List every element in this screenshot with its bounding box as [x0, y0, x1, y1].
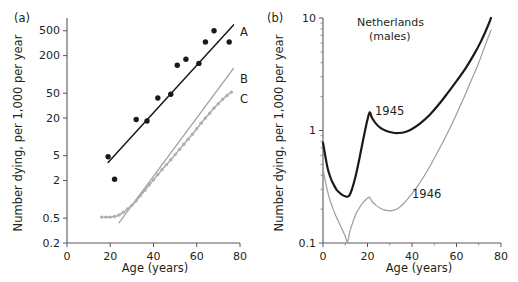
panel-a-x-tick-label: 80 [233, 250, 247, 263]
panel-a-series-C-point [199, 122, 202, 125]
panel-b-series [323, 18, 491, 242]
panel-a-series-A-point [203, 39, 208, 44]
panel-b-x-tick-label: 60 [450, 250, 464, 263]
panel-a-series-C-point [160, 168, 163, 171]
panel-a-series [100, 25, 234, 223]
panel-b-y-axis-title: Number dying, per 1,000 per year [272, 34, 286, 231]
panel-a: (a) Number dying, per 1,000 per year Age… [0, 0, 259, 282]
panel-a-series-C-point [208, 111, 211, 114]
panel-a-series-C-point [147, 183, 150, 186]
panel-a-series-C-point [156, 173, 159, 176]
panel-a-series-A-point [134, 117, 139, 122]
panel-a-series-C-point [178, 148, 181, 151]
panel-b-x-tick-label: 80 [494, 250, 508, 263]
panel-a-series-C-point [117, 213, 120, 216]
panel-a-series-C-curve [102, 92, 232, 217]
panel-a-curve-labels: ABC [240, 25, 248, 106]
panel-b: (b) Number dying, per 1,000 per year Age… [259, 0, 518, 282]
panel-a-series-A-point [196, 61, 201, 66]
panel-a-series-C-point [152, 178, 155, 181]
panel-a-y-axis-title: Number dying, per 1,000 per year [11, 34, 25, 231]
panel-a-series-A-point [112, 177, 117, 182]
panel-a-curve-label-A: A [240, 25, 248, 39]
panel-a-series-A-point [105, 154, 110, 159]
panel-b-x-tick-label: 0 [320, 250, 327, 263]
panel-b-x-axis-title: Age (years) [386, 261, 453, 275]
panel-a-series-C-point [221, 98, 224, 101]
panel-a-x-tick-label: 40 [147, 250, 161, 263]
panel-a-series-C-point [135, 199, 138, 202]
panel-a-y-tick-label: 0.5 [43, 212, 61, 225]
panel-a-series-C-point [173, 153, 176, 156]
panel-a-series-A-point [168, 92, 173, 97]
panel-a-series-C-point [191, 133, 194, 136]
panel-a-series-A-point [144, 118, 149, 123]
panel-b-annotation-country: Netherlands [357, 16, 424, 29]
panel-a-series-A-point [175, 63, 180, 68]
panel-a-x-axis-title: Age (years) [122, 261, 189, 275]
panel-a-x-tick-label: 0 [64, 250, 71, 263]
panel-a-tick-labels: 0.20.5252050200500020406080 [39, 24, 247, 263]
panel-a-y-tick-label: 200 [39, 49, 60, 62]
panel-a-x-tick-label: 20 [103, 250, 117, 263]
panel-b-y-tick-label: 10 [302, 12, 316, 25]
panel-a-series-C-point [212, 106, 215, 109]
panel-a-series-C-point [230, 90, 233, 93]
panel-a-series-C-point [186, 137, 189, 140]
panel-a-series-C-point [122, 211, 125, 214]
panel-b-plot: (b) Number dying, per 1,000 per year Age… [259, 0, 518, 282]
panel-a-series-A-point [211, 28, 216, 33]
panel-a-y-tick-label: 0.2 [43, 237, 61, 250]
panel-a-y-tick-label: 2 [53, 174, 60, 187]
panel-a-series-C-point [113, 215, 116, 218]
panel-a-series-A-point [226, 39, 231, 44]
panel-a-series-C-point [100, 215, 103, 218]
panel-a-label: (a) [14, 11, 30, 25]
panel-b-y-tick-label: 1 [309, 124, 316, 137]
panel-b-y-tick-label: 0.1 [299, 237, 317, 250]
panel-a-y-tick-label: 20 [46, 112, 60, 125]
panel-b-annotation-sex: (males) [369, 30, 411, 43]
panel-b-x-tick-label: 20 [361, 250, 375, 263]
panel-a-curve-label-B: B [240, 72, 248, 86]
panel-a-series-C-point [104, 215, 107, 218]
panel-b-curve-label-1945: 1945 [375, 104, 404, 118]
panel-a-series-C-point [165, 163, 168, 166]
panel-a-axes [63, 18, 240, 247]
panel-a-series-C-point [182, 143, 185, 146]
figure-container: (a) Number dying, per 1,000 per year Age… [0, 0, 518, 282]
panel-b-curve-labels: 19451946 [375, 104, 441, 201]
panel-a-x-tick-label: 60 [190, 250, 204, 263]
panel-a-y-tick-label: 50 [46, 87, 60, 100]
panel-b-axes [319, 18, 501, 247]
panel-a-series-C-point [169, 158, 172, 161]
panel-a-series-C-point [217, 102, 220, 105]
panel-b-series-1945-curve [323, 18, 491, 197]
panel-a-series-C-point [109, 215, 112, 218]
panel-a-y-tick-label: 500 [39, 24, 60, 37]
panel-a-series-A-point [155, 95, 160, 100]
panel-a-series-C-point [225, 94, 228, 97]
panel-a-series-C-point [204, 116, 207, 119]
panel-b-label: (b) [267, 11, 283, 25]
panel-a-series-C-point [139, 194, 142, 197]
panel-a-axis-lines [67, 18, 240, 243]
panel-b-x-tick-label: 40 [405, 250, 419, 263]
panel-a-series-C-point [126, 207, 129, 210]
panel-a-series-A-point [183, 57, 188, 62]
panel-a-y-tick-label: 5 [53, 149, 60, 162]
panel-b-curve-label-1946: 1946 [412, 187, 441, 201]
panel-a-plot: (a) Number dying, per 1,000 per year Age… [0, 0, 259, 282]
panel-a-series-C-point [195, 127, 198, 130]
panel-b-series-1946-curve [323, 30, 491, 242]
panel-a-curve-label-C: C [240, 92, 248, 106]
panel-a-series-C-point [130, 204, 133, 207]
panel-a-series-C-point [143, 189, 146, 192]
